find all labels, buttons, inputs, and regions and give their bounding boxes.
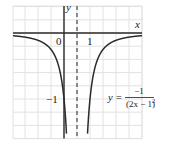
x-tick-label-0: 0 bbox=[56, 35, 62, 47]
x-tick-label-1: 1 bbox=[87, 35, 93, 47]
equation-exponent: 2 bbox=[152, 97, 155, 104]
equation-denominator: (2x − 1) bbox=[126, 99, 155, 109]
x-axis-label: x bbox=[134, 18, 140, 30]
graph: x y 0 1 −1 y = −1 (2x − 1) 2 bbox=[0, 0, 174, 146]
y-axis-label: y bbox=[65, 1, 71, 13]
y-tick-label-neg1: −1 bbox=[46, 93, 58, 105]
curve-left-branch bbox=[13, 36, 66, 134]
equation-lhs: y = bbox=[107, 92, 122, 103]
equation-label: y = −1 (2x − 1) 2 bbox=[107, 86, 155, 109]
curve-right-branch bbox=[88, 36, 142, 134]
equation-numerator: −1 bbox=[134, 86, 144, 96]
